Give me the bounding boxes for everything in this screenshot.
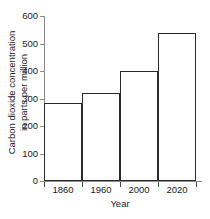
x-axis-title: Year (44, 198, 196, 209)
y-axis-tick-label: 500 (12, 39, 38, 49)
y-axis-tick-mark (40, 71, 44, 72)
bar (158, 33, 196, 182)
bar (120, 71, 158, 181)
bar-chart-figure: Carbon dioxide concentration in parts pe… (0, 0, 210, 219)
x-axis-tick-labels: 1860196020002020 (44, 184, 210, 198)
plot-area (44, 16, 196, 181)
y-axis-tick-mark (40, 16, 44, 17)
bar (44, 103, 82, 181)
y-axis-tick-label: 0 (12, 176, 38, 186)
y-axis-tick-mark (40, 44, 44, 45)
y-axis-tick-labels: 0100200300400500600 (12, 0, 38, 219)
x-axis-tick-label: 2020 (158, 184, 196, 195)
x-axis-tick-label: 1860 (44, 184, 82, 195)
bar (82, 93, 120, 181)
x-axis-tick-label: 1960 (82, 184, 120, 195)
y-axis-tick-mark (40, 99, 44, 100)
x-axis-tick-label: 2000 (120, 184, 158, 195)
y-axis-tick-label: 600 (12, 11, 38, 21)
y-axis-tick-label: 400 (12, 66, 38, 76)
y-axis-tick-label: 100 (12, 149, 38, 159)
y-axis-tick-label: 300 (12, 94, 38, 104)
x-axis-line (44, 181, 202, 182)
y-axis-tick-label: 200 (12, 121, 38, 131)
